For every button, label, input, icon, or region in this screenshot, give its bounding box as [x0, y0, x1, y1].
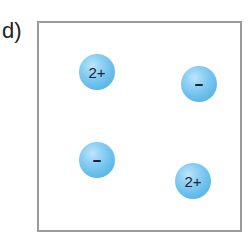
- ion-anion: [79, 142, 115, 178]
- ion-charge-label: 2+: [88, 65, 105, 80]
- ion-anion: [181, 66, 217, 102]
- panel-label: d): [2, 19, 22, 43]
- minus-sign-icon: [195, 84, 203, 86]
- ion-cation: 2+: [79, 54, 115, 90]
- minus-sign-icon: [93, 160, 101, 162]
- ion-cation: 2+: [175, 163, 211, 199]
- container-box: [37, 21, 242, 232]
- ion-charge-label: 2+: [184, 174, 201, 189]
